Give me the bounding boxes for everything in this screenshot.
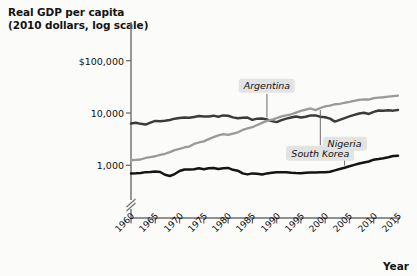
- series-label-argentina: Argentina: [239, 79, 296, 94]
- y-tick-label: 10,000: [91, 108, 124, 119]
- y-tick-label: $100,000: [79, 55, 124, 66]
- y-tick-label: 1,000: [97, 160, 124, 171]
- series-label-nigeria: Nigeria: [323, 136, 367, 151]
- chart-figure: Real GDP per capita (2010 dollars, log s…: [0, 0, 417, 276]
- chart-x-axis-title: Year: [383, 260, 409, 272]
